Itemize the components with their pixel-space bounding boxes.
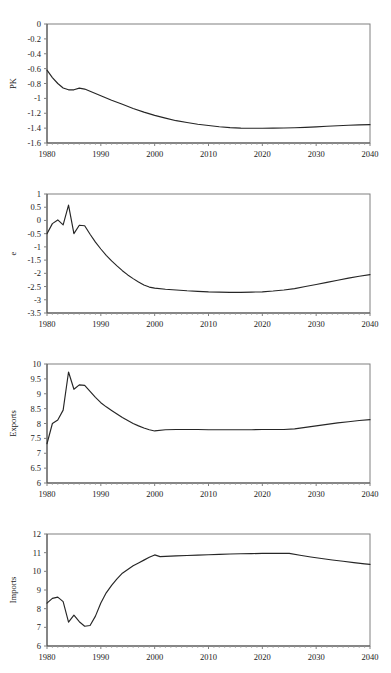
y-tick-label: -2.5	[28, 282, 41, 292]
chart-body-exports: 109.598.587.576.561980199020002010202020…	[8, 359, 379, 499]
plot-frame	[47, 364, 370, 483]
x-tick-label: 2020	[254, 319, 271, 329]
chart-panel-e: 10.50-0.5-1-1.5-2-2.5-3-3.51980199020002…	[0, 170, 391, 340]
x-tick-label: 2010	[200, 319, 217, 329]
y-tick-label: 0	[37, 19, 41, 29]
chart-panel-pk: 0-0.2-0.4-0.6-0.8-1-1.2-1.4-1.6198019902…	[0, 0, 391, 170]
x-tick-label: 2020	[254, 652, 271, 662]
plot-axes	[47, 364, 370, 483]
y-tick-label: 6.5	[30, 463, 41, 473]
y-tick-label: 8	[37, 604, 41, 614]
y-tick-label: -0.2	[28, 34, 41, 44]
chart-svg-pk: 0-0.2-0.4-0.6-0.8-1-1.2-1.4-1.6198019902…	[0, 0, 391, 170]
y-axis-title: PK	[8, 77, 18, 89]
y-tick-label: 9	[37, 389, 41, 399]
x-tick-label: 2040	[362, 489, 379, 499]
data-series-line	[47, 205, 370, 292]
x-tick-label: 1980	[39, 489, 56, 499]
x-tick-label: 2020	[254, 489, 271, 499]
y-tick-label: 6	[37, 478, 41, 488]
chart-panel-exports: 109.598.587.576.561980199020002010202020…	[0, 340, 391, 510]
y-tick-label: -1.2	[28, 108, 41, 118]
x-tick-label: 2010	[200, 149, 217, 159]
chart-body-imports: 12111098761980199020002010202020302040Im…	[8, 529, 379, 662]
y-axis-title: e	[8, 251, 18, 255]
y-axis-title: Exports	[8, 410, 18, 436]
x-tick-label: 1980	[39, 652, 56, 662]
y-tick-label: 8	[37, 419, 41, 429]
data-series-line	[47, 553, 370, 626]
y-tick-label: 0	[37, 215, 41, 225]
x-tick-label: 2040	[362, 149, 379, 159]
y-tick-label: 12	[33, 529, 42, 539]
x-tick-label: 2030	[308, 652, 325, 662]
chart-svg-e: 10.50-0.5-1-1.5-2-2.5-3-3.51980199020002…	[0, 170, 391, 340]
plot-axes	[47, 194, 370, 313]
y-tick-label: 6	[37, 641, 41, 651]
x-tick-label: 2000	[146, 319, 163, 329]
figure-page: 0-0.2-0.4-0.6-0.8-1-1.2-1.4-1.6198019902…	[0, 0, 391, 673]
chart-svg-exports: 109.598.587.576.561980199020002010202020…	[0, 340, 391, 510]
y-tick-label: 7	[37, 622, 41, 632]
y-tick-label: -1.6	[28, 138, 41, 148]
x-tick-label: 1990	[92, 149, 109, 159]
x-tick-label: 1980	[39, 149, 56, 159]
x-tick-label: 2010	[200, 652, 217, 662]
data-series-line	[47, 372, 370, 444]
y-tick-label: 9.5	[30, 374, 41, 384]
x-tick-label: 2010	[200, 489, 217, 499]
chart-body-e: 10.50-0.5-1-1.5-2-2.5-3-3.51980199020002…	[8, 189, 379, 329]
x-tick-label: 1990	[92, 652, 109, 662]
x-tick-label: 2000	[146, 652, 163, 662]
y-tick-label: -0.8	[28, 79, 41, 89]
y-tick-label: 7.5	[30, 433, 41, 443]
x-tick-label: 2000	[146, 489, 163, 499]
y-tick-label: 7	[37, 448, 41, 458]
y-tick-label: 9	[37, 585, 41, 595]
y-axis-title: Imports	[8, 577, 18, 603]
x-tick-label: 1980	[39, 319, 56, 329]
plot-frame	[47, 534, 370, 646]
y-tick-label: 0.5	[30, 202, 41, 212]
x-tick-label: 1990	[92, 319, 109, 329]
y-tick-label: -3	[34, 295, 41, 305]
y-tick-label: -0.5	[28, 229, 41, 239]
x-tick-label: 2030	[308, 489, 325, 499]
y-tick-label: 1	[37, 189, 41, 199]
y-tick-label: -3.5	[28, 308, 41, 318]
x-tick-label: 2000	[146, 149, 163, 159]
y-tick-label: -2	[34, 268, 41, 278]
x-tick-label: 1990	[92, 489, 109, 499]
x-tick-label: 2030	[308, 319, 325, 329]
y-tick-label: -1.4	[28, 123, 42, 133]
chart-panel-imports: 12111098761980199020002010202020302040Im…	[0, 510, 391, 673]
x-tick-label: 2020	[254, 149, 271, 159]
y-tick-label: 11	[33, 548, 41, 558]
plot-axes	[47, 534, 370, 646]
y-tick-label: -1	[34, 93, 41, 103]
data-series-line	[47, 70, 370, 128]
plot-frame	[47, 194, 370, 313]
y-tick-label: 10	[33, 566, 42, 576]
y-tick-label: -0.6	[28, 64, 41, 74]
y-tick-label: -0.4	[28, 49, 42, 59]
y-tick-label: -1.5	[28, 255, 41, 265]
chart-svg-imports: 12111098761980199020002010202020302040Im…	[0, 510, 391, 673]
x-tick-label: 2040	[362, 319, 379, 329]
x-tick-label: 2030	[308, 149, 325, 159]
x-tick-label: 2040	[362, 652, 379, 662]
y-tick-label: 10	[33, 359, 42, 369]
chart-body-pk: 0-0.2-0.4-0.6-0.8-1-1.2-1.4-1.6198019902…	[8, 19, 379, 159]
y-tick-label: -1	[34, 242, 41, 252]
y-tick-label: 8.5	[30, 404, 41, 414]
